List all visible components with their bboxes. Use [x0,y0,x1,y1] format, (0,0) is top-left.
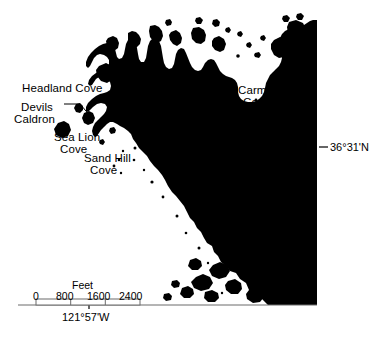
speck-7 [133,159,136,162]
label-sea-lion: Sea Lion [54,131,100,144]
scale-bar-tick-label-2400: 2400 [119,290,142,302]
scale-bar-tick-label-1600: 1600 [87,290,110,302]
label-carmelo-cove: Cove [243,96,270,109]
map-graphic [0,0,379,339]
scale-bar-tick-label-0: 0 [33,290,39,302]
map-figure: Headland Cove Devils Caldron Sea Lion Co… [0,0,379,339]
speck-17 [112,104,115,107]
label-devils: Devils [21,101,53,114]
speck-13 [236,54,240,58]
speck-10 [120,172,122,174]
speck-11 [207,262,209,264]
speck-2 [162,196,165,199]
latitude-label: 36°31'N [330,141,369,153]
speck-5 [198,247,201,250]
speck-12 [221,292,223,294]
speck-19 [134,147,137,150]
label-caldron: Caldron [14,113,55,126]
scale-bar-tick-label-800: 800 [56,290,74,302]
label-sand-hill: Sand Hill [84,152,131,165]
speck-1 [150,180,153,183]
speck-16 [103,96,106,99]
speck-6 [143,169,145,171]
longitude-label: 121°57'W [62,311,109,323]
label-sand-hill-cove: Cove [90,164,117,177]
label-headland-cove: Headland Cove [22,82,103,95]
label-carmelo: Carmelo [238,84,282,97]
speck-3 [176,215,179,218]
speck-4 [185,232,188,235]
